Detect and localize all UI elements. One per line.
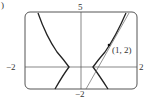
point-marker: [108, 44, 111, 47]
x-min-label: −2: [6, 63, 16, 72]
y-min-label: −2: [75, 90, 85, 98]
curve-left-branch: [38, 13, 69, 89]
x-max-label: 2: [139, 63, 144, 72]
point-annotation: (1, 2): [112, 46, 132, 55]
y-max-label: 5: [78, 3, 83, 12]
